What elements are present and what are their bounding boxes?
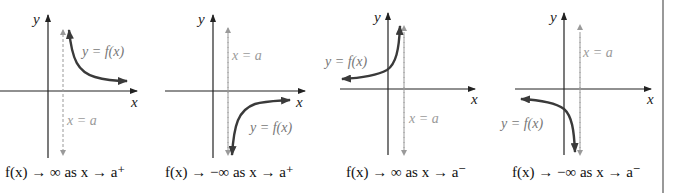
- asymptote-label: x = a: [66, 113, 97, 128]
- asymptote-diagram: y x y = f(x) x = a y x y = f(x) x = a y …: [0, 0, 675, 193]
- caption-panel-3: f(x) → ∞ as x → a⁻: [346, 163, 466, 181]
- y-axis-label: y: [31, 11, 40, 27]
- panel-2: y x y = f(x) x = a: [165, 11, 305, 158]
- curve: [342, 26, 400, 79]
- curve-label: y = f(x): [248, 120, 292, 136]
- x-axis-label: x: [470, 91, 478, 107]
- caption-panel-1: f(x) → ∞ as x → a⁺: [5, 163, 125, 181]
- caption-panel-4: f(x) → −∞ as x → a⁻: [512, 163, 641, 181]
- x-axis-label: x: [646, 91, 654, 107]
- panel-1: y x y = f(x) x = a: [0, 11, 138, 158]
- y-axis-label: y: [372, 9, 381, 25]
- asymptote-label: x = a: [231, 48, 262, 63]
- curve-label: y = f(x): [80, 44, 124, 60]
- panel-4: y x y = f(x) x = a: [499, 9, 654, 155]
- panel-3: y x y = f(x) x = a: [323, 9, 478, 155]
- y-axis-label: y: [548, 9, 557, 25]
- x-axis-label: x: [295, 94, 303, 110]
- x-axis-label: x: [130, 94, 138, 110]
- caption-panel-2: f(x) → −∞ as x → a⁺: [165, 163, 294, 181]
- curve-label: y = f(x): [323, 54, 367, 70]
- y-axis-label: y: [196, 11, 205, 27]
- asymptote-label: x = a: [408, 111, 439, 126]
- curve-label: y = f(x): [499, 116, 543, 132]
- asymptote-label: x = a: [582, 45, 613, 60]
